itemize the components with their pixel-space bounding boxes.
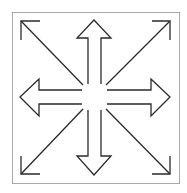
expand-diagram (0, 0, 187, 193)
